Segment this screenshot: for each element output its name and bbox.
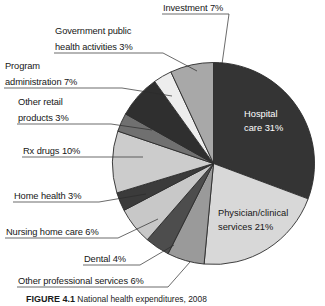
callout-other-retail-line2-wrap: products 3% [18,112,69,125]
figure-container: Hospitalcare 31%Physician/clinicalservic… [0,0,325,306]
callout-nursing-home-care: Nursing home care 6% [6,226,99,239]
callout-dental-line1: Dental 4% [84,254,126,264]
callout-other-retail-line1: Other retail [18,97,63,107]
callout-government-public-health-line2: health activities 3% [55,42,133,52]
callout-program-administration-line2-wrap: administration 7% [5,76,77,89]
callout-dental: Dental 4% [84,253,126,266]
callout-program-administration-line2: administration 7% [5,77,77,87]
figure-caption-text: National health expenditures, 2008 [77,294,206,304]
callout-home-health-line1: Home health 3% [14,191,81,201]
callout-government-public-health-line1: Government public [55,26,131,36]
callout-program-administration-line1: Program [5,61,40,71]
callout-other-professional-services-line1: Other professional services 6% [18,276,144,286]
leader-line-investment [162,14,229,64]
pie-slice-group [113,63,315,265]
callout-other-retail-line2: products 3% [18,113,69,123]
figure-caption: FIGURE 4.1 National health expenditures,… [26,294,207,305]
callout-investment-line1: Investment 7% [163,3,223,13]
callout-program-administration: Program [5,60,40,73]
callout-rx-drugs-line1: Rx drugs 10% [23,146,80,156]
callout-other-retail: Other retail [18,96,63,109]
callout-home-health: Home health 3% [14,190,81,203]
callout-government-public-health-line2-wrap: health activities 3% [55,41,133,54]
callout-government-public-health: Government public [55,25,131,38]
callout-investment: Investment 7% [163,2,223,15]
callout-other-professional-services: Other professional services 6% [18,275,144,288]
figure-caption-label: FIGURE 4.1 [26,294,75,304]
callout-rx-drugs: Rx drugs 10% [23,145,80,158]
callout-nursing-home-care-line1: Nursing home care 6% [6,227,99,237]
leader-line-government-public-health [54,53,197,71]
